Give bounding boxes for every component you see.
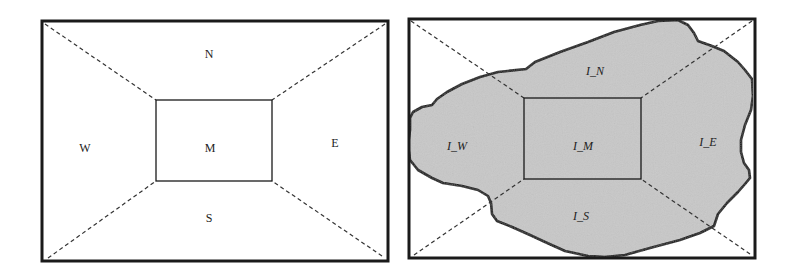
label-i-middle: I_M	[572, 139, 594, 153]
diagram-canvas: N W M E S I_N I_W I_M I_E I_S	[0, 0, 792, 279]
label-north: N	[205, 47, 214, 61]
label-middle: M	[205, 141, 216, 155]
right-panel: I_N I_W I_M I_E I_S	[408, 19, 755, 258]
label-i-west: I_W	[446, 139, 468, 153]
label-south: S	[206, 211, 213, 225]
label-i-east: I_E	[698, 135, 717, 149]
label-east: E	[331, 136, 338, 150]
label-west: W	[79, 141, 91, 155]
left-panel: N W M E S	[42, 21, 388, 261]
label-i-north: I_N	[585, 64, 605, 78]
label-i-south: I_S	[572, 209, 589, 223]
